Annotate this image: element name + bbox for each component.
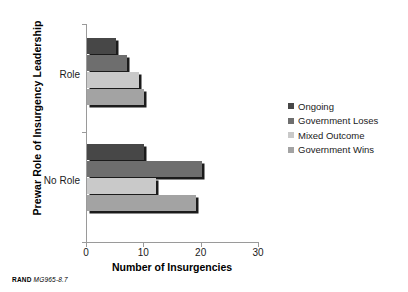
legend-label: Ongoing — [298, 101, 334, 112]
x-axis-tick-label: 0 — [71, 247, 101, 258]
bar-chart-figure: Prewar Role of Insurgency Leadership Rol… — [0, 0, 408, 292]
legend-swatch-icon — [288, 118, 294, 124]
legend-swatch-icon — [288, 147, 294, 153]
legend-label: Government Wins — [298, 144, 374, 155]
bar — [87, 38, 116, 54]
legend-item: Government Wins — [288, 143, 406, 158]
legend-item: Mixed Outcome — [288, 128, 406, 143]
x-axis-tick-label: 20 — [186, 247, 216, 258]
bar-row — [87, 160, 258, 177]
y-axis-tick — [82, 24, 87, 25]
legend-item: Government Loses — [288, 114, 406, 129]
y-axis-tick-label-role: Role — [10, 69, 80, 80]
y-axis-category-labels: Role No Role — [8, 0, 80, 292]
figure-footer: RAND MG965-8.7 — [12, 276, 68, 283]
bar — [87, 144, 144, 160]
bar-group — [87, 37, 258, 105]
footer-brand: RAND — [12, 276, 32, 283]
bar-row — [87, 88, 258, 105]
bar — [87, 89, 144, 105]
legend-label: Government Loses — [298, 115, 378, 126]
bar — [87, 72, 139, 88]
bar — [87, 195, 196, 211]
footer-figure-id: MG965-8.7 — [34, 276, 68, 283]
legend-swatch-icon — [288, 103, 294, 109]
legend-swatch-icon — [288, 132, 294, 138]
legend-label: Mixed Outcome — [298, 130, 365, 141]
bar — [87, 161, 202, 177]
bar-row — [87, 37, 258, 54]
bar — [87, 55, 127, 71]
y-axis-tick-label-no-role: No Role — [10, 175, 80, 186]
chart-legend: OngoingGovernment LosesMixed OutcomeGove… — [288, 99, 406, 157]
bar-row — [87, 71, 258, 88]
x-axis-tick-label: 10 — [128, 247, 158, 258]
bar-row — [87, 194, 258, 211]
y-axis-tick — [82, 132, 87, 133]
y-axis-tick — [82, 242, 87, 243]
bar-row — [87, 143, 258, 160]
legend-item: Ongoing — [288, 99, 406, 114]
x-axis-tick-label: 30 — [243, 247, 273, 258]
bar-row — [87, 54, 258, 71]
bar-group — [87, 143, 258, 211]
bar-row — [87, 177, 258, 194]
x-axis-title: Number of Insurgencies — [86, 261, 258, 273]
plot-area — [86, 24, 258, 242]
x-axis-line — [86, 242, 258, 243]
bar — [87, 178, 156, 194]
